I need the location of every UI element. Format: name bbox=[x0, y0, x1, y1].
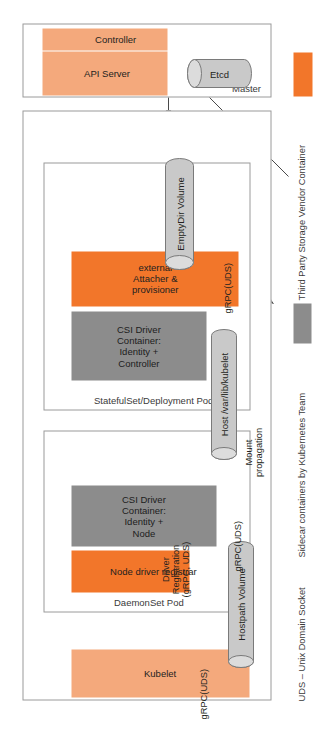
diagram-canvas: Worker DaemonSet Pod Node driver registr… bbox=[0, 0, 323, 743]
csi-driver-node-container-box[interactable]: CSI Driver Container: Identity + Node bbox=[71, 485, 216, 546]
legend-sidecar-label: Sidecar containers by Kubernetes Team bbox=[296, 392, 306, 557]
api-server-label: API Server bbox=[83, 67, 125, 78]
host-kubelet-dir-cylinder[interactable]: Host /var/lib/kubelet bbox=[210, 328, 237, 460]
statefulset-pod-label: StatefulSet/Deployment Pod bbox=[94, 395, 213, 406]
grpc-uds-registrar-label: gRPC(UDS) bbox=[232, 520, 242, 571]
emptydir-volume-cylinder[interactable]: EmptyDir Volume bbox=[164, 157, 194, 270]
kubelet-box[interactable]: Kubelet bbox=[71, 649, 249, 697]
api-server-box[interactable]: API Server bbox=[42, 51, 167, 95]
legend-vendor-swatch bbox=[293, 52, 312, 96]
controller-box[interactable]: Controller bbox=[42, 28, 167, 50]
legend-sidecar-swatch bbox=[293, 303, 311, 343]
grpc-uds-kubelet-label: gRPC(UDS) bbox=[198, 668, 208, 719]
controller-label: Controller bbox=[94, 33, 114, 44]
external-attacher-provisioner-box[interactable]: external Attacher & provisioner bbox=[71, 251, 238, 306]
csi-driver-controller-container-box[interactable]: CSI Driver Container: Identity + Control… bbox=[71, 311, 206, 380]
driver-registration-label: Driver Registration (gRPC, UDS) bbox=[160, 523, 191, 615]
legend-uds-label: UDS – Unix Domain Socket bbox=[296, 587, 306, 701]
grpc-uds-emptydir-label: gRPC(UDS) bbox=[222, 262, 232, 313]
node-driver-registrar-label: Node driver registrar bbox=[110, 565, 150, 576]
kubelet-label: Kubelet bbox=[137, 667, 183, 678]
etcd-cylinder[interactable]: Etcd bbox=[186, 58, 252, 88]
legend-vendor-label: Third Party Storage Vendor Container bbox=[296, 144, 306, 300]
mount-propagation-label: Mount propagation bbox=[243, 417, 263, 487]
csi-driver-controller-container-label: CSI Driver Container: Identity + Control… bbox=[105, 323, 172, 368]
